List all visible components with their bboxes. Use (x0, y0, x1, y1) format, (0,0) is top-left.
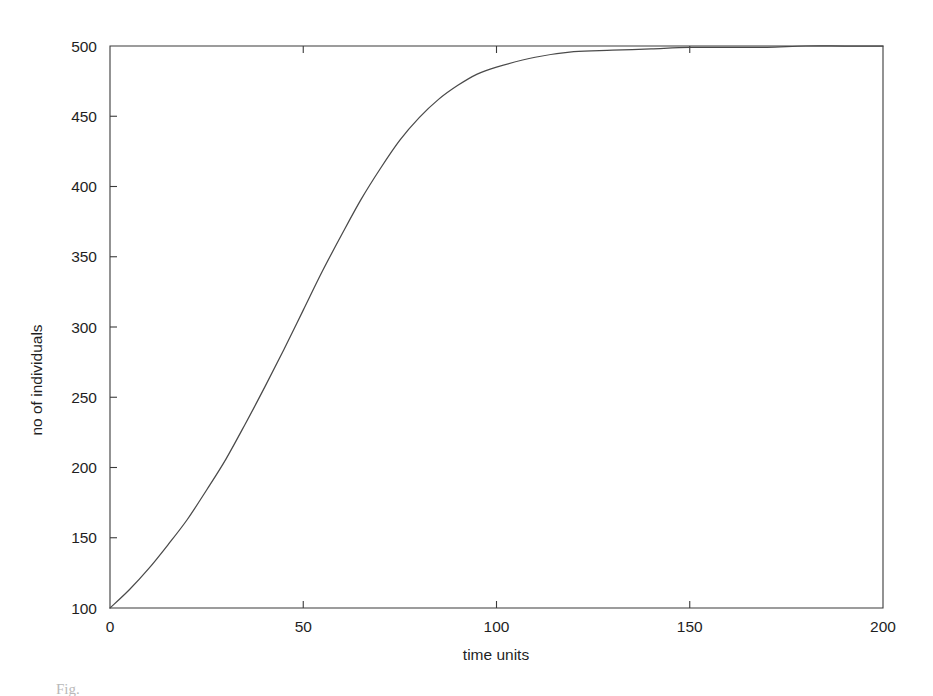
y-tick-label: 250 (71, 389, 97, 406)
x-tick-label: 150 (677, 618, 703, 635)
x-tick-label: 0 (106, 618, 115, 635)
plot-frame (110, 46, 883, 608)
x-axis-ticks (303, 46, 690, 608)
y-axis-ticks (110, 116, 117, 538)
y-axis-tick-labels: 100150200250300350400450500 (71, 38, 97, 617)
y-tick-label: 150 (71, 529, 97, 546)
x-tick-label: 200 (870, 618, 896, 635)
x-axis-title: time units (463, 646, 530, 663)
y-tick-label: 500 (71, 38, 97, 55)
y-tick-label: 450 (71, 108, 97, 125)
figure-container: 100150200250300350400450500 050100150200… (0, 0, 933, 696)
x-axis-tick-labels: 050100150200 (106, 618, 897, 635)
y-tick-label: 200 (71, 459, 97, 476)
y-tick-label: 100 (71, 600, 97, 617)
x-tick-label: 50 (295, 618, 313, 635)
y-tick-label: 300 (71, 319, 97, 336)
y-axis-title: no of individuals (28, 324, 45, 435)
line-chart: 100150200250300350400450500 050100150200… (0, 0, 933, 696)
data-series-line (110, 46, 883, 608)
y-tick-label: 350 (71, 248, 97, 265)
axis-frame (110, 46, 883, 608)
y-tick-label: 400 (71, 178, 97, 195)
x-tick-label: 100 (484, 618, 510, 635)
figure-caption: Fig. (56, 681, 80, 696)
